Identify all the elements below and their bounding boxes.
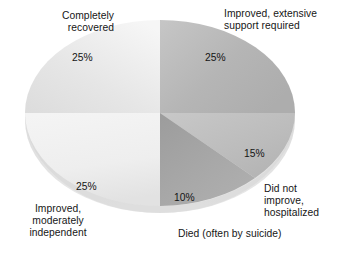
- pie-slice-improved-moderately-independent: [25, 113, 160, 206]
- pie-slice-improved-extensive-support: [160, 20, 295, 113]
- slice-label-died-by-suicide: Died (often by suicide): [178, 228, 328, 240]
- slice-label-completely-recovered: Completely recovered: [18, 10, 114, 34]
- slice-value-completely-recovered: 25%: [72, 52, 93, 63]
- slice-label-improved-moderately-independent: Improved, moderately independent: [6, 203, 110, 240]
- slice-value-died-by-suicide: 10%: [174, 192, 195, 203]
- slice-label-improved-extensive-support: Improved, extensive support required: [224, 8, 342, 32]
- pie-chart-figure: Completely recovered Improved, extensive…: [0, 0, 345, 253]
- slice-label-did-not-improve-hospitalized: Did not improve, hospitalized: [264, 183, 344, 220]
- slice-value-did-not-improve-hospitalized: 15%: [244, 148, 265, 159]
- slice-value-improved-extensive-support: 25%: [205, 52, 226, 63]
- slice-value-improved-moderately-independent: 25%: [76, 181, 97, 192]
